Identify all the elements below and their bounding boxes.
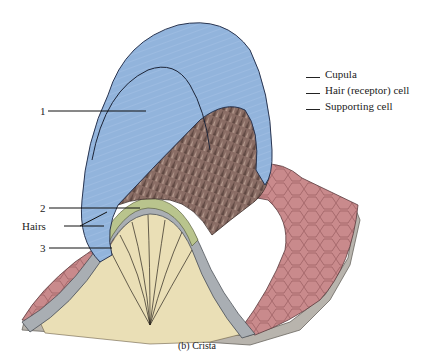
callout-2-label: 2 (40, 202, 46, 214)
legend-label: Cupula (325, 68, 357, 80)
legend-label: Hair (receptor) cell (325, 84, 409, 96)
callout-hairs-label: Hairs (22, 220, 46, 232)
callout-1-label: 1 (40, 105, 46, 117)
legend-label: Supporting cell (325, 100, 393, 112)
legend-dash (306, 77, 320, 78)
callout-3-label: 3 (40, 242, 46, 254)
figure-caption: (b) Crista (178, 340, 216, 351)
legend-item-hair-cell: Hair (receptor) cell (306, 82, 409, 98)
legend-item-cupula: Cupula (306, 66, 409, 82)
crista-illustration (0, 0, 431, 363)
crista-diagram: 1 2 Hairs 3 Cupula Hair (receptor) cell … (0, 0, 431, 363)
legend-item-supporting-cell: Supporting cell (306, 98, 409, 114)
legend-dash (306, 93, 320, 94)
legend: Cupula Hair (receptor) cell Supporting c… (306, 66, 409, 114)
legend-dash (306, 109, 320, 110)
